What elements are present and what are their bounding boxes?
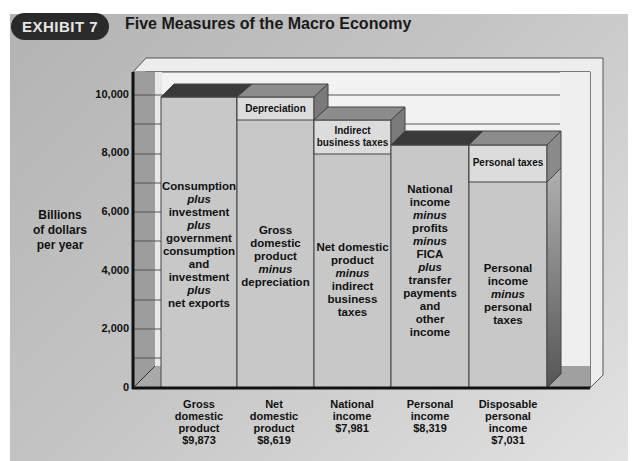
x-label-value: $9,873 <box>159 434 239 446</box>
y-tick: 6,000 <box>69 205 129 217</box>
bar-body-label-ndp: Gross domestic product minus depreciatio… <box>237 224 314 289</box>
body-line: personal <box>469 301 547 314</box>
body-line-operator: minus <box>391 235 469 248</box>
x-label-gdp: Gross domestic product $9,873 <box>159 398 239 446</box>
body-line: and <box>391 300 469 313</box>
body-line: government <box>161 232 237 245</box>
body-line: Personal <box>469 262 547 275</box>
x-label-line: income <box>312 410 392 422</box>
body-line: transfer <box>391 274 469 287</box>
bar-body-label-ni: Net domestic product minus indirect busi… <box>314 241 391 319</box>
x-label-line: Personal <box>390 398 470 410</box>
x-label-line: Gross <box>159 398 239 410</box>
body-line-operator: plus <box>161 284 237 297</box>
body-line: other <box>391 313 469 326</box>
x-label-value: $8,319 <box>390 422 470 434</box>
x-label-line: income <box>390 410 470 422</box>
x-label-line: income <box>468 422 548 434</box>
body-line: net exports <box>161 297 237 310</box>
bar-body-label-gdp: Consumption plus investment plus governm… <box>161 180 237 310</box>
body-line-operator: minus <box>391 209 469 222</box>
y-tick: 4,000 <box>69 264 129 276</box>
body-line-operator: plus <box>161 219 237 232</box>
bar-body-label-pi: National income minus profits minus FICA… <box>391 183 469 339</box>
body-line: product <box>237 250 314 263</box>
body-line: Gross <box>237 224 314 237</box>
bar-body-label-dpi: Personal income minus personal taxes <box>469 262 547 327</box>
x-label-line: domestic <box>159 410 239 422</box>
body-line: income <box>391 326 469 339</box>
body-line: taxes <box>469 314 547 327</box>
body-line: business taxes <box>314 293 391 319</box>
x-label-line: product <box>159 422 239 434</box>
x-label-value: $7,981 <box>312 422 392 434</box>
y-tick: 10,000 <box>69 88 129 100</box>
body-line: investment <box>161 271 237 284</box>
x-label-line: Disposable <box>468 398 548 410</box>
body-line-operator: plus <box>391 261 469 274</box>
x-label-line: Net <box>234 398 314 410</box>
body-line: and <box>161 258 237 271</box>
body-line: depreciation <box>237 276 314 289</box>
body-line-operator: plus <box>161 193 237 206</box>
body-line: Net domestic <box>314 241 391 254</box>
x-label-ni: National income $7,981 <box>312 398 392 434</box>
body-line: product <box>314 254 391 267</box>
x-label-ndp: Net domestic product $8,619 <box>234 398 314 446</box>
body-line: payments <box>391 287 469 300</box>
y-axis-label-line: of dollars <box>30 223 90 238</box>
body-line: indirect <box>314 280 391 293</box>
body-line: Consumption <box>161 180 237 193</box>
body-line: income <box>391 196 469 209</box>
body-line: consumption <box>161 245 237 258</box>
y-tick: 8,000 <box>69 146 129 158</box>
x-label-value: $8,619 <box>234 434 314 446</box>
body-line-operator: minus <box>237 263 314 276</box>
body-line: income <box>469 275 547 288</box>
x-label-pi: Personal income $8,319 <box>390 398 470 434</box>
body-line: profits <box>391 222 469 235</box>
y-tick: 0 <box>69 381 129 393</box>
x-label-line: domestic <box>234 410 314 422</box>
segment-label-depreciation: Depreciation <box>237 103 314 115</box>
x-label-value: $7,031 <box>468 434 548 446</box>
x-label-line: personal <box>468 410 548 422</box>
x-label-line: National <box>312 398 392 410</box>
body-line-operator: minus <box>469 288 547 301</box>
x-label-dpi: Disposable personal income $7,031 <box>468 398 548 446</box>
body-line: domestic <box>237 237 314 250</box>
y-tick: 2,000 <box>69 322 129 334</box>
segment-label-personal-taxes: Personal taxes <box>469 157 547 169</box>
body-line: investment <box>161 206 237 219</box>
body-line-operator: minus <box>314 267 391 280</box>
body-line: FICA <box>391 248 469 261</box>
segment-label-indirect-business-taxes: Indirect business taxes <box>314 125 391 149</box>
body-line: National <box>391 183 469 196</box>
x-label-line: product <box>234 422 314 434</box>
y-axis-label-line: per year <box>30 238 90 253</box>
